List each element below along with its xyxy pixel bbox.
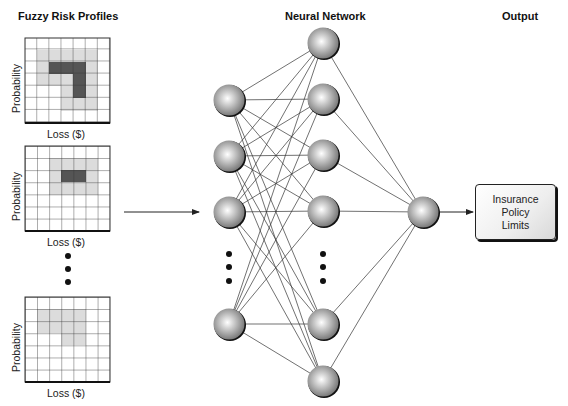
ellipsis-dot [65, 253, 71, 259]
risk-profile-1 [25, 38, 110, 123]
output-line-1: Insurance [492, 193, 538, 206]
profile-2-x-label: Loss ($) [47, 236, 85, 248]
output-line-2: Policy [501, 206, 529, 219]
risk-profile-2 [25, 146, 110, 231]
insurance-policy-limits-box: Insurance Policy Limits [475, 184, 556, 240]
ellipsis-dot [65, 266, 71, 272]
profile-1-y-label: Probability [10, 64, 22, 113]
ellipsis-dot [65, 279, 71, 285]
hidden-layer [308, 28, 341, 399]
profile-3-y-label: Probability [10, 323, 22, 372]
profile-3-x-label: Loss ($) [47, 387, 85, 399]
profile-2-y-label: Probability [10, 172, 22, 221]
risk-profile-3 [25, 297, 110, 382]
output-line-3: Limits [502, 219, 529, 232]
profile-1-x-label: Loss ($) [47, 128, 85, 140]
